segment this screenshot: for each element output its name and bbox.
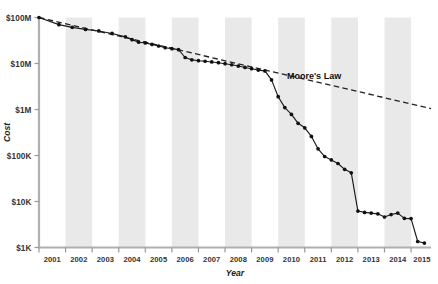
x-tick-label: 2008 (230, 255, 247, 264)
x-tick-label: 2004 (123, 255, 141, 264)
cost-per-genome-chart: $100M$10M$1M$100K$10K$1K 200120022003200… (0, 0, 438, 284)
data-point (323, 155, 327, 159)
data-point (223, 62, 227, 66)
data-point (423, 241, 427, 245)
data-point (369, 211, 373, 215)
data-point (243, 66, 247, 70)
data-point (124, 35, 128, 39)
year-band-2012 (331, 18, 358, 248)
data-point (70, 26, 74, 30)
y-tick-label: $10K (12, 198, 32, 207)
year-band-2008 (225, 18, 252, 248)
x-axis-ticks: 2001200220032004200520062007200820092010… (39, 248, 431, 264)
data-point (263, 69, 267, 73)
data-point (37, 16, 41, 20)
x-tick-label: 2011 (310, 255, 328, 264)
x-tick-label: 2009 (256, 255, 273, 264)
data-point (256, 68, 260, 72)
chart-annotations: Moore's Law (287, 71, 342, 81)
data-point (97, 29, 101, 33)
data-point (157, 44, 161, 48)
x-tick-label: 2014 (389, 255, 407, 264)
data-point (110, 32, 114, 36)
data-point (376, 212, 380, 216)
data-point (363, 211, 367, 215)
data-point (250, 67, 254, 71)
data-point (396, 211, 400, 215)
data-point (170, 47, 174, 51)
year-band-2002 (66, 18, 93, 248)
x-tick-label: 2013 (363, 255, 380, 264)
data-point (356, 209, 360, 213)
x-axis-title: Year (226, 268, 245, 278)
data-point (416, 240, 420, 244)
data-point (296, 122, 300, 126)
data-point (217, 61, 221, 65)
data-point (270, 78, 274, 82)
data-point (303, 126, 307, 130)
x-tick-label: 2005 (150, 255, 168, 264)
data-point (143, 41, 147, 45)
data-point (197, 59, 201, 63)
y-axis-title: Cost (2, 122, 12, 142)
data-point (150, 43, 154, 47)
y-tick-label: $1K (16, 244, 31, 253)
x-tick-label: 2006 (177, 255, 194, 264)
shaded-year-bands (66, 18, 411, 248)
x-tick-label: 2003 (97, 255, 114, 264)
year-band-2004 (119, 18, 146, 248)
year-band-2010 (278, 18, 305, 248)
x-tick-label: 2015 (413, 255, 431, 264)
data-point (236, 64, 240, 68)
data-point (163, 46, 167, 50)
x-tick-label: 2001 (44, 255, 62, 264)
y-tick-label: $100M (6, 14, 32, 23)
data-point (84, 28, 88, 32)
data-point (283, 106, 287, 110)
chart-canvas: $100M$10M$1M$100K$10K$1K 200120022003200… (0, 0, 438, 284)
data-point (276, 95, 280, 99)
x-tick-label: 2007 (203, 255, 220, 264)
data-point (349, 171, 353, 175)
year-band-2006 (172, 18, 199, 248)
data-point (383, 215, 387, 219)
data-point (316, 147, 320, 151)
data-point (57, 23, 61, 27)
y-tick-label: $1M (15, 106, 31, 115)
data-point (210, 60, 214, 64)
moores-law-label: Moore's Law (287, 71, 342, 81)
y-tick-label: $100K (7, 152, 32, 161)
data-point (336, 162, 340, 166)
x-tick-label: 2010 (283, 255, 300, 264)
data-point (329, 158, 333, 162)
data-point (343, 168, 347, 172)
data-point (190, 58, 194, 62)
data-point (137, 40, 141, 44)
x-tick-label: 2012 (336, 255, 353, 264)
data-point (230, 63, 234, 67)
data-point (183, 56, 187, 60)
data-point (403, 217, 407, 221)
data-point (130, 38, 134, 42)
data-point (409, 217, 413, 221)
data-point (203, 59, 207, 63)
data-point (177, 48, 181, 52)
data-point (389, 213, 393, 217)
x-tick-label: 2002 (70, 255, 87, 264)
data-point (310, 135, 314, 139)
data-point (290, 113, 294, 117)
y-tick-label: $10M (11, 60, 32, 69)
